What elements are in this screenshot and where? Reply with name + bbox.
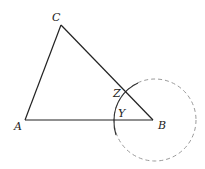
label-Y: Y <box>118 107 127 120</box>
label-C: C <box>52 11 61 24</box>
label-B: B <box>157 119 166 132</box>
triangle-construction-diagram: C A B Z Y <box>0 0 205 169</box>
segment-CB <box>61 25 153 120</box>
label-A: A <box>13 120 22 133</box>
segment-AC <box>25 25 61 120</box>
label-Z: Z <box>112 87 121 100</box>
